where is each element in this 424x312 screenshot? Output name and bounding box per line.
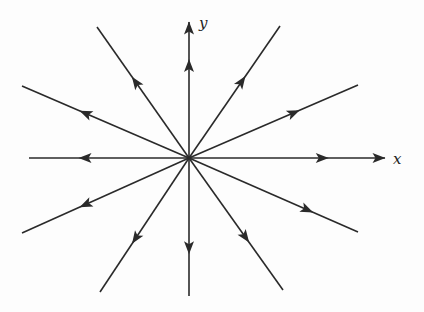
- trajectory-pos-x-axis: [189, 153, 386, 163]
- trajectory-line: [189, 158, 358, 232]
- trajectory-lower-right-shallow: [189, 158, 358, 232]
- trajectory-neg-y-axis: [184, 158, 194, 296]
- x-axis-label: x: [393, 150, 401, 168]
- arrowhead-icon: [234, 76, 245, 90]
- phase-portrait-canvas: [0, 0, 424, 312]
- phase-portrait-diagram: x y: [0, 0, 424, 312]
- y-axis-label: y: [199, 14, 207, 32]
- arrowhead-icon: [132, 230, 143, 244]
- trajectory-neg-x-axis: [29, 153, 189, 163]
- arrowhead-icon: [238, 229, 250, 242]
- trajectory-pos-y-axis: [184, 22, 194, 159]
- arrowhead-icon: [132, 77, 144, 91]
